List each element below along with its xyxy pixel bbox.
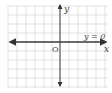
- coordinate-plane: y x O y = 0: [0, 0, 112, 93]
- y-axis-label: y: [63, 4, 70, 14]
- equation-label: y = 0: [83, 32, 105, 41]
- origin-label: O: [52, 45, 59, 54]
- x-axis-label: x: [104, 44, 109, 54]
